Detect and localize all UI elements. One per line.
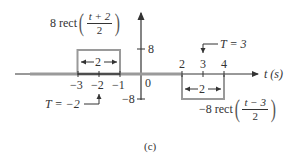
y-tick-label-8: 8 — [148, 43, 154, 55]
negative-pulse-formula: −8 rect ( t − 3 2 ) — [199, 96, 278, 122]
x-tick-label: 2 — [179, 58, 185, 70]
positive-pulse-numerator: t + 2 — [87, 11, 112, 24]
x-tick-label: −2 — [91, 79, 104, 91]
negative-pulse-numerator: t − 3 — [242, 97, 267, 110]
negative-pulse-width-label: 2 — [199, 83, 205, 95]
callout-arrow-tneg2 — [84, 94, 99, 104]
x-axis-label: t (s) — [264, 68, 283, 80]
signal-plot — [0, 0, 303, 161]
x-tick-label: −1 — [112, 79, 125, 91]
x-tick-label: −3 — [70, 79, 83, 91]
x-tick-label: 4 — [221, 58, 227, 70]
annotation-tneg2: T = −2 — [45, 98, 80, 110]
negative-pulse-denominator: 2 — [252, 110, 258, 122]
positive-pulse-denominator: 2 — [97, 24, 103, 36]
annotation-t3: T = 3 — [220, 38, 247, 50]
origin-label: 0 — [145, 77, 151, 89]
x-tick-label: 3 — [200, 58, 206, 70]
positive-pulse-formula: 8 rect ( t + 2 2 ) — [50, 10, 122, 36]
y-tick-label-neg8: −8 — [122, 93, 135, 105]
positive-pulse-width-label: 2 — [95, 56, 101, 68]
callout-arrow-t3 — [203, 44, 218, 53]
figure-caption: (c) — [144, 140, 156, 152]
